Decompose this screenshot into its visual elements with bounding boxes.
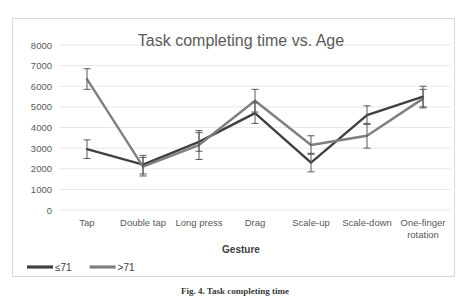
figure-caption: Fig. 4. Task completing time	[0, 286, 470, 300]
x-axis-tick-label: Scale-down	[342, 217, 392, 228]
y-axis-tick-label: 1000	[31, 184, 52, 195]
x-axis-title: Gesture	[222, 244, 260, 255]
y-axis-tick-label: 0	[47, 205, 52, 216]
x-axis-tick-label: One-finger	[401, 217, 446, 228]
x-axis-tick-label: Double tap	[120, 217, 166, 228]
y-axis-tick-label: 6000	[31, 81, 52, 92]
y-axis-tick-label: 7000	[31, 60, 52, 71]
legend-label-0[interactable]: ≤71	[55, 262, 72, 273]
chart-container: 010002000300040005000600070008000 TapDou…	[12, 18, 455, 277]
y-axis-tick-labels: 010002000300040005000600070008000	[31, 40, 52, 216]
y-axis-tick-label: 5000	[31, 101, 52, 112]
x-axis-tick-label: Scale-up	[292, 217, 330, 228]
line-chart: 010002000300040005000600070008000 TapDou…	[13, 19, 454, 276]
chart-title: Task completing time vs. Age	[138, 32, 344, 49]
y-axis-tick-label: 2000	[31, 163, 52, 174]
error-bars-group	[84, 69, 427, 176]
x-axis-tick-labels: TapDouble tapLong pressDragScale-upScale…	[79, 217, 445, 240]
x-axis-tick-label: rotation	[407, 229, 439, 240]
y-axis-tick-label: 3000	[31, 143, 52, 154]
x-axis-tick-label: Tap	[79, 217, 94, 228]
y-axis-tick-label: 4000	[31, 122, 52, 133]
x-axis-tick-label: Drag	[245, 217, 266, 228]
chart-legend[interactable]: ≤71>71	[27, 262, 135, 273]
legend-label-1[interactable]: >71	[118, 262, 135, 273]
y-axis-tick-label: 8000	[31, 40, 52, 51]
x-axis-tick-label: Long press	[175, 217, 222, 228]
